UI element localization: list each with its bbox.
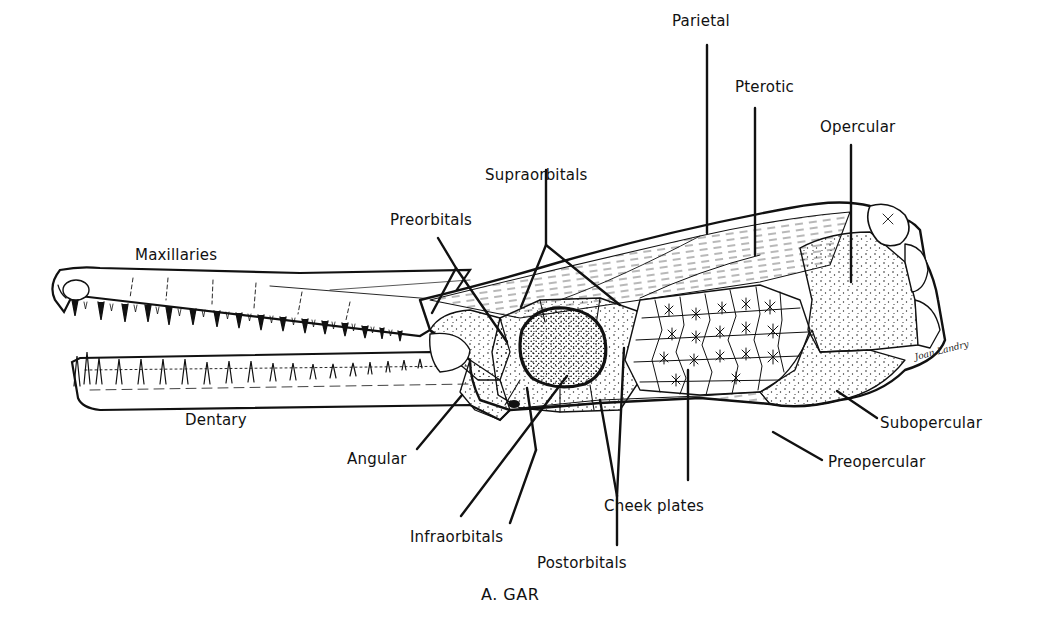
label-preopercular: Preopercular [828, 455, 925, 470]
label-preorbitals: Preorbitals [390, 213, 472, 228]
leader-line-infraorbitals [510, 450, 536, 523]
label-infraorbitals: Infraorbitals [410, 530, 503, 545]
gar-skull-drawing [0, 0, 1046, 632]
upper-jaw [52, 267, 470, 341]
label-maxillaries: Maxillaries [135, 248, 217, 263]
label-dentary: Dentary [185, 413, 247, 428]
leader-line-preopercular [773, 432, 822, 460]
gar-skull-diagram: Parietal Pterotic Opercular Supraorbital… [0, 0, 1046, 632]
figure-caption: A. GAR [481, 587, 539, 603]
skull-body [420, 202, 945, 420]
label-subopercular: Subopercular [880, 416, 982, 431]
label-pterotic: Pterotic [735, 80, 794, 95]
label-cheek-plates: Cheek plates [604, 499, 704, 514]
label-opercular: Opercular [820, 120, 895, 135]
label-postorbitals: Postorbitals [537, 556, 627, 571]
leader-line-postorbitals [600, 400, 617, 496]
label-supraorbitals: Supraorbitals [485, 168, 588, 183]
label-parietal: Parietal [672, 14, 730, 29]
label-angular: Angular [347, 452, 407, 467]
